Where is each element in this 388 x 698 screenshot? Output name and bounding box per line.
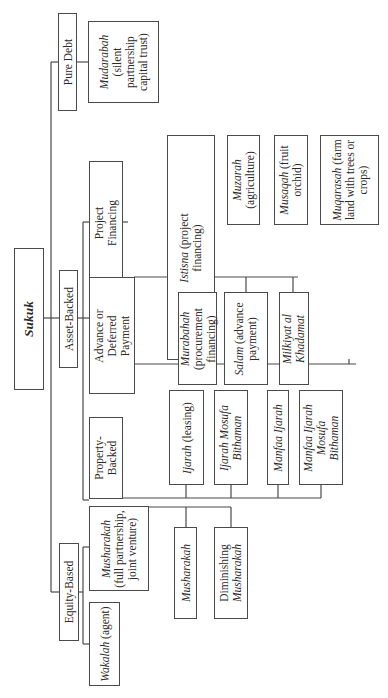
sukuk-classification-diagram: Sukuk Pure Debt Asset-Backed Equity-Base… — [0, 0, 388, 698]
musharakah-term: Musharakah — [179, 544, 191, 602]
mudarabah-node: Mudarabah (silent partnership capital tr… — [88, 21, 159, 103]
mudarabah-description: (silent partnership capital trust) — [111, 33, 149, 91]
musharakah-full-term: Musharakah — [100, 519, 112, 577]
ijarah-term: Ijarah — [180, 445, 192, 474]
asset-backed-label: Asset-Backed — [62, 272, 75, 366]
diminishing-musharakah-term: Musharakah — [231, 544, 243, 602]
mudarabah-term: Mudarabah — [98, 35, 110, 89]
muzarah-term: Muzarah — [231, 159, 243, 201]
manfaa-ijarah-mosufa-bithaman-node: Manfaa Ijarah Mosufa Bithaman — [299, 390, 343, 485]
ijarah-leasing-node: Ijarah (leasing) — [169, 390, 204, 485]
diminishing-label: Diminishing — [218, 544, 230, 602]
equity-based-node: Equity-Based — [59, 543, 79, 641]
milkiyat-al-khadamat-node: Milkiyat al Khadamat — [279, 292, 309, 385]
diminishing-musharakah-node: Diminishing Musharakah — [214, 527, 248, 619]
sukuk-root-node: Sukuk — [14, 248, 44, 390]
musharakah-node: Musharakah — [174, 527, 197, 619]
advance-deferred-payment-label: Advance or Deferred Payment — [93, 305, 132, 367]
musaqah-term: Musaqah — [278, 172, 290, 215]
property-backed-node: Property-Backed — [89, 417, 123, 499]
ijarah-mosufa-term: Ijarah Mosufa Bithaman — [218, 404, 243, 470]
istisna-term: Istisna — [178, 251, 190, 282]
property-backed-label: Property-Backed — [93, 428, 119, 488]
milkiyat-term: Milkiyat al Khadamat — [281, 313, 306, 363]
manfaa-ijarah-node: Manfaa Ijarah — [267, 390, 289, 485]
project-financing-label: Project Financing — [93, 193, 119, 253]
murabahah-node: Murabahah (procurement financing) — [178, 292, 217, 385]
musaqah-node: Musaqah (fruit orchid) — [274, 135, 308, 225]
musharakah-full-partnership-node: Musharakah (full partnership, joint vent… — [89, 506, 149, 591]
sukuk-root-label: Sukuk — [21, 250, 36, 388]
ijarah-description: (leasing) — [180, 402, 192, 442]
salam-node: Salam (advance payment) — [224, 292, 268, 385]
muqarasah-node: Muqarasah (farm land with trees or crops… — [320, 135, 379, 225]
murabahah-term: Murabahah — [178, 311, 190, 365]
salam-term: Salam — [233, 346, 245, 375]
muzarah-description: (agriculture) — [244, 151, 256, 208]
asset-backed-node: Asset-Backed — [59, 270, 78, 368]
equity-based-label: Equity-Based — [63, 545, 76, 639]
musharakah-full-description: (full partnership, joint venture) — [113, 510, 138, 587]
murabahah-description: (procurement financing) — [191, 308, 216, 370]
wakalah-node: Wakalah (agent) — [89, 602, 120, 686]
pure-debt-label: Pure Debt — [61, 15, 74, 109]
wakalah-term: Wakalah — [98, 642, 110, 682]
advance-deferred-payment-node: Advance or Deferred Payment — [89, 277, 135, 394]
manfaa-ijarah-term: Manfaa Ijarah — [272, 404, 284, 471]
muzarah-node: Muzarah (agriculture) — [227, 135, 260, 225]
manfaa-ijarah-mosufa-term: Manfaa Ijarah Mosufa Bithaman — [302, 404, 340, 471]
wakalah-description: (agent) — [98, 606, 110, 639]
pure-debt-node: Pure Debt — [58, 13, 77, 111]
muqarasah-term: Muqarasah — [330, 168, 342, 221]
ijarah-mosufa-bithaman-node: Ijarah Mosufa Bithaman — [214, 390, 248, 485]
project-financing-node: Project Financing — [89, 161, 123, 284]
